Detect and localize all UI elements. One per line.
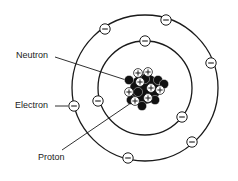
proton: [125, 88, 134, 97]
electron-inner: [140, 36, 150, 46]
proton: [136, 78, 145, 87]
neutron-label: Neutron: [16, 50, 48, 60]
electron-inner: [177, 112, 187, 122]
proton: [134, 69, 143, 78]
electron-outer: [187, 137, 197, 147]
electron-outer: [161, 15, 171, 25]
electron-outer: [100, 24, 110, 34]
atom-diagram: [0, 0, 238, 181]
electron-outer: [206, 58, 216, 68]
electron-outer: [69, 101, 79, 111]
neutron: [124, 75, 133, 84]
proton-label: Proton: [38, 152, 65, 162]
proton: [144, 68, 153, 77]
proton: [147, 84, 156, 93]
electron-inner: [93, 96, 103, 106]
electron-label: Electron: [15, 100, 48, 110]
nucleus: [124, 68, 168, 111]
proton: [144, 94, 153, 103]
proton: [131, 97, 140, 106]
neutron: [133, 87, 142, 96]
proton: [156, 86, 165, 95]
electron-outer: [123, 153, 133, 163]
neutron-leader-line: [55, 57, 126, 80]
